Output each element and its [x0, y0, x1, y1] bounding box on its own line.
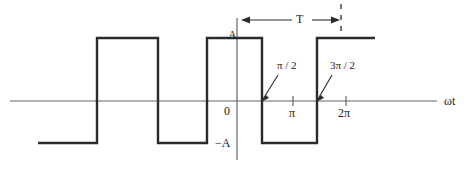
- label-amplitude-positive: A: [228, 29, 237, 41]
- square-wave-trace: [38, 38, 375, 143]
- leader-line-3pi-over-2: [316, 75, 332, 102]
- label-annotation-pi-over-2: π / 2: [277, 60, 297, 71]
- period-arrow-left: [241, 17, 292, 24]
- label-tick-2pi: 2π: [338, 107, 350, 119]
- waveform-svg: [0, 0, 468, 177]
- leader-line-pi-over-2: [261, 75, 278, 102]
- label-origin: 0: [224, 105, 230, 117]
- label-annotation-3pi-over-2: 3π / 2: [330, 60, 355, 71]
- period-arrow-right: [312, 17, 340, 24]
- label-x-axis: ωt: [444, 95, 455, 107]
- label-tick-pi: π: [289, 107, 295, 119]
- figure-canvas: A −A 0 π 2π T ωt π / 2 3π / 2: [0, 0, 468, 177]
- label-period: T: [296, 13, 303, 25]
- label-amplitude-negative: −A: [215, 137, 230, 149]
